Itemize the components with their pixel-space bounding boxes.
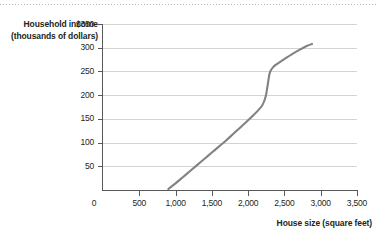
y-tick-350 [98,24,103,25]
x-tick-2500 [284,191,285,196]
y-tick-label-150: 150 [52,113,94,123]
gridline-y-250 [103,71,357,72]
x-tick-3500 [357,191,358,196]
x-tick-label-1000: 1,000 [156,198,196,208]
x-tick-500 [139,191,140,196]
gridline-y-300 [103,48,357,49]
plot-area [103,24,357,190]
gridline-y-150 [103,119,357,120]
y-tick-50 [98,166,103,167]
x-tick-label-2000: 2,000 [228,198,268,208]
x-tick-3000 [321,191,322,196]
y-tick-200 [98,95,103,96]
y-tick-100 [98,143,103,144]
y-tick-label-300: 300 [52,42,94,52]
x-axis-title: House size (square feet) [196,218,372,228]
x-tick-1000 [176,191,177,196]
gridline-y-50 [103,166,357,167]
y-tick-250 [98,71,103,72]
gridline-y-100 [103,143,357,144]
y-tick-label-250: 250 [52,66,94,76]
x-tick-label-3500: 3,500 [337,198,376,208]
x-tick-label-2500: 2,500 [264,198,304,208]
gridline-y-350 [103,24,357,25]
y-tick-label-50: 50 [52,161,94,171]
y-tick-label-100: 100 [52,137,94,147]
y-tick-label-200: 200 [52,90,94,100]
gridline-y-200 [103,95,357,96]
x-tick-label-500: 500 [119,198,159,208]
chart-figure: Household income (thousands of dollars) … [0,0,376,236]
top-dotted-rule [0,4,376,5]
y-axis-title-line-2: (thousands of dollars) [2,31,98,43]
x-tick-2000 [248,191,249,196]
y-tick-300 [98,48,103,49]
x-tick-label-1500: 1,500 [192,198,232,208]
y-tick-150 [98,119,103,120]
x-tick-label-3000: 3,000 [301,198,341,208]
x-tick-label-0: 0 [86,198,102,208]
x-tick-1500 [212,191,213,196]
x-axis-line [102,190,358,191]
y-tick-label-350: $350 [52,19,94,29]
